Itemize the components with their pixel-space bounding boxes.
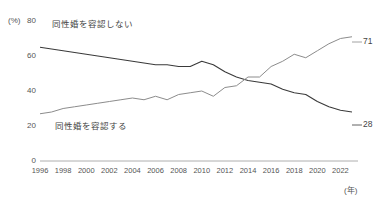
x-axis-tick-2008: 2008 xyxy=(166,166,192,175)
approve-end-value-label: 71 xyxy=(363,36,372,46)
chart-container: (%) (年) 80 60 40 20 0 199619982000200220… xyxy=(0,0,383,211)
oppose-end-value-label: 28 xyxy=(363,119,372,129)
y-axis-tick-80: 80 xyxy=(14,16,36,25)
series-group xyxy=(40,37,352,114)
y-axis-tick-0: 0 xyxy=(14,156,36,165)
x-axis-tick-2020: 2020 xyxy=(304,166,330,175)
x-axis-unit-label: (年) xyxy=(344,184,357,195)
x-axis-tick-2006: 2006 xyxy=(143,166,169,175)
x-axis-tick-2016: 2016 xyxy=(258,166,284,175)
x-axis-tick-2022: 2022 xyxy=(327,166,353,175)
x-axis-tick-2000: 2000 xyxy=(73,166,99,175)
oppose-series-label: 同性婚を容認しない xyxy=(52,17,133,29)
x-axis-tick-2014: 2014 xyxy=(235,166,261,175)
x-axis-tick-2004: 2004 xyxy=(119,166,145,175)
approve-series-label: 同性婚を容認する xyxy=(55,119,127,131)
line-chart-svg xyxy=(0,0,383,211)
x-axis-tick-1998: 1998 xyxy=(50,166,76,175)
end-leader-lines xyxy=(352,42,362,125)
y-axis-tick-60: 60 xyxy=(14,51,36,60)
x-axis-tick-2010: 2010 xyxy=(189,166,215,175)
x-axis-tick-1996: 1996 xyxy=(27,166,53,175)
series-line-oppose xyxy=(40,47,352,112)
x-axis-tick-2002: 2002 xyxy=(96,166,122,175)
x-axis-tick-2012: 2012 xyxy=(212,166,238,175)
y-axis-tick-40: 40 xyxy=(14,86,36,95)
x-axis-tick-2018: 2018 xyxy=(281,166,307,175)
series-line-approve xyxy=(40,37,352,114)
y-axis-tick-20: 20 xyxy=(14,121,36,130)
